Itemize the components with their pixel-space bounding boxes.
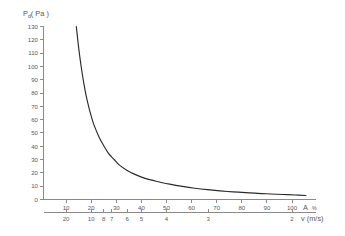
y-tick-label: 130 (28, 23, 39, 30)
y-tick-label: 20 (31, 169, 38, 176)
dynamic-pressure-curve (76, 27, 306, 196)
primary-x-axis-title-main: A (303, 203, 308, 212)
x-tick-label: 90 (264, 204, 271, 211)
y-tick-label: 100 (28, 63, 39, 70)
x-tick-label: 70 (213, 204, 220, 211)
y-tick-label: 80 (31, 89, 38, 96)
v-tick-label: 10 (88, 215, 95, 222)
secondary-x-axis-title: v (m/s) (301, 214, 324, 223)
y-axis-title-unit: ( Pa ) (31, 9, 49, 18)
x-tick-label: 30 (113, 204, 120, 211)
v-tick-label: 3 (207, 215, 211, 222)
y-tick-label: 10 (31, 182, 38, 189)
y-tick-label: 30 (31, 156, 38, 163)
v-tick-label: 5 (140, 215, 144, 222)
primary-x-axis-ticks: 10 20 30 40 50 60 70 80 90 100 (63, 199, 298, 210)
secondary-x-axis-ticks: 20 10 8 7 6 5 4 3 2 (63, 209, 295, 222)
y-axis-title: Pd( Pa ) (23, 9, 49, 19)
y-tick-label: 70 (31, 103, 38, 110)
v-tick-label: 20 (63, 215, 70, 222)
v-tick-label: 4 (165, 215, 169, 222)
x-tick-label: 60 (188, 204, 195, 211)
v-tick-label: 7 (110, 215, 114, 222)
x-tick-label: 80 (238, 204, 245, 211)
primary-x-axis-title-unit: % (312, 205, 317, 211)
v-tick-label: 2 (290, 215, 294, 222)
dynamic-pressure-chart: Pd( Pa ) 130 120 110 100 90 80 70 60 50 … (0, 0, 345, 236)
primary-x-axis-title: A% (303, 203, 317, 212)
y-axis-ticks: 130 120 110 100 90 80 70 60 50 40 30 20 … (28, 23, 44, 203)
chart-container: Pd( Pa ) 130 120 110 100 90 80 70 60 50 … (0, 0, 345, 236)
v-tick-label: 8 (102, 215, 106, 222)
y-tick-label: 50 (31, 129, 38, 136)
y-tick-label: 90 (31, 76, 38, 83)
v-tick-label: 6 (126, 215, 130, 222)
y-tick-label: 0 (35, 196, 39, 203)
y-tick-label: 40 (31, 143, 38, 150)
y-tick-label: 60 (31, 116, 38, 123)
y-tick-label: 120 (28, 36, 39, 43)
y-tick-label: 110 (28, 49, 38, 56)
